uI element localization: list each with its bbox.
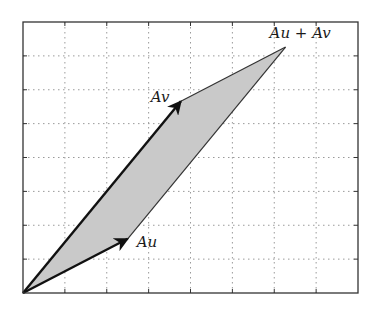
parallelogram-diagram: Au Av Au + Av — [0, 0, 376, 312]
label-au-plus-av: Au + Av — [268, 24, 332, 42]
label-au: Au — [135, 233, 158, 251]
diagram-canvas: Au Av Au + Av — [0, 0, 376, 312]
label-av: Av — [149, 88, 170, 106]
parallelogram-region — [23, 47, 286, 293]
